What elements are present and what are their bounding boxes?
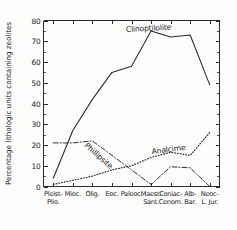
plot-frame — [44, 21, 220, 187]
y-axis-ticks — [44, 22, 220, 188]
y-tick-label: 0 — [36, 183, 41, 192]
x-tick-label: Paleoc. — [121, 190, 143, 198]
series-line-analcime — [53, 133, 209, 185]
series-label-clinoptilolite: Clinoptilolite — [126, 23, 172, 34]
y-tick-label: 70 — [31, 37, 41, 46]
line-chart-canvas: 01020304050607080 Pleist-Plio.Mioc.Olig.… — [0, 0, 237, 230]
y-axis-title: Percentage lithologic units containing z… — [4, 22, 13, 185]
x-tick-label: Mioc. — [65, 190, 81, 198]
x-tick-label: Eoc. — [105, 190, 118, 198]
series-line-phillipsite — [53, 141, 209, 187]
x-axis-ticks — [54, 21, 211, 187]
x-tick-label: Neoc-L. Jur. — [201, 190, 220, 206]
y-tick-label: 60 — [31, 58, 41, 67]
chart-figure: 01020304050607080 Pleist-Plio.Mioc.Olig.… — [0, 0, 237, 230]
y-axis-tick-labels: 01020304050607080 — [31, 17, 41, 192]
x-tick-label: Pleist-Plio. — [44, 190, 63, 206]
y-tick-label: 80 — [31, 17, 41, 26]
y-tick-label: 50 — [31, 79, 41, 88]
x-axis-tick-labels: Pleist-Plio.Mioc.Olig.Eoc.Paleoc.Maest-S… — [44, 190, 219, 206]
series-line-clinoptilolite — [53, 31, 209, 178]
x-tick-label: Alb-Bar. — [184, 190, 197, 206]
y-tick-label: 20 — [31, 141, 41, 150]
data-series-group — [53, 31, 209, 187]
y-tick-label: 40 — [31, 100, 41, 109]
x-tick-label: Olig. — [85, 190, 99, 198]
y-tick-label: 10 — [31, 162, 41, 171]
x-tick-label: Coniac-Cenom. — [159, 190, 183, 206]
y-tick-label: 30 — [31, 120, 41, 129]
